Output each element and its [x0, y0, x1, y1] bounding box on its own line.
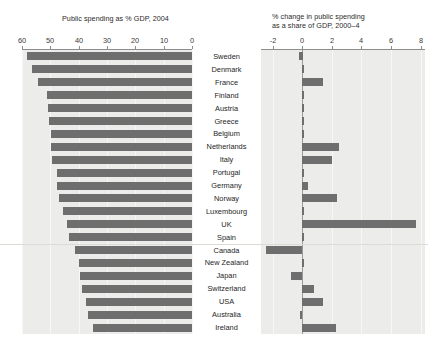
left-chart-axis-line — [22, 49, 192, 50]
bar-left-greece — [49, 117, 192, 125]
right-axis-6-tick-label: 6 — [389, 36, 393, 45]
bar-left-canada — [75, 246, 192, 254]
category-label-denmark: Denmark — [192, 65, 261, 74]
right-axis-4-tick — [361, 46, 362, 49]
bar-right-sweden — [299, 52, 303, 60]
bar-left-switzerland — [82, 285, 192, 293]
bar-right-new-zealand — [302, 259, 304, 267]
bar-right-netherlands — [302, 143, 339, 151]
right-chart-title: % change in public spending as a share o… — [272, 12, 365, 31]
right-gridline-2 — [332, 50, 333, 334]
bar-left-finland — [47, 91, 192, 99]
left-axis-60-tick — [22, 46, 23, 49]
left-axis-50-tick-label: 50 — [46, 36, 54, 45]
category-label-switzerland: Switzerland — [192, 284, 261, 293]
left-axis-60-tick-label: 60 — [18, 36, 26, 45]
right-axis-0-tick-label: 0 — [300, 36, 304, 45]
right-gridline--2 — [273, 50, 274, 334]
left-axis-30-tick — [107, 46, 108, 49]
bar-left-denmark — [32, 65, 192, 73]
right-chart-plot-area — [261, 50, 425, 334]
category-label-france: France — [192, 78, 261, 87]
category-label-uk: UK — [192, 220, 261, 229]
left-axis-10-tick-label: 10 — [160, 36, 168, 45]
category-label-sweden: Sweden — [192, 52, 261, 61]
bar-left-new-zealand — [79, 259, 192, 267]
bar-left-belgium — [51, 130, 192, 138]
right-gridline-8 — [421, 50, 422, 334]
bar-left-sweden — [27, 52, 192, 60]
bar-left-spain — [69, 233, 192, 241]
bar-right-uk — [302, 220, 416, 228]
category-label-italy: Italy — [192, 155, 261, 164]
bar-right-portugal — [302, 169, 304, 177]
bar-left-ireland — [93, 324, 192, 332]
category-label-belgium: Belgium — [192, 129, 261, 138]
category-label-netherlands: Netherlands — [192, 142, 261, 151]
right-axis-8-tick — [421, 46, 422, 49]
bar-right-canada — [266, 246, 302, 254]
bar-right-austria — [302, 104, 304, 112]
right-axis-4-tick-label: 4 — [359, 36, 363, 45]
left-axis-10-tick — [164, 46, 165, 49]
bar-right-denmark — [302, 65, 304, 73]
right-gridline-4 — [361, 50, 362, 334]
bar-right-usa — [302, 298, 323, 306]
chart-root: 6050403020100-202468 Public spending as … — [0, 0, 428, 342]
left-axis-50-tick — [50, 46, 51, 49]
left-axis-0-tick-label: 0 — [190, 36, 194, 45]
left-chart-title: Public spending as % GDP, 2004 — [62, 14, 169, 23]
left-axis-30-tick-label: 30 — [103, 36, 111, 45]
bar-left-austria — [48, 104, 192, 112]
category-label-australia: Australia — [192, 310, 261, 319]
category-label-ireland: Ireland — [192, 323, 261, 332]
category-label-spain: Spain — [192, 233, 261, 242]
category-label-usa: USA — [192, 297, 261, 306]
left-axis-20-tick — [135, 46, 136, 49]
bar-left-norway — [59, 194, 192, 202]
bar-right-australia — [300, 311, 302, 319]
left-axis-40-tick — [79, 46, 80, 49]
category-label-japan: Japan — [192, 271, 261, 280]
left-gridline-60 — [22, 50, 23, 334]
bar-left-luxembourg — [63, 207, 192, 215]
right-axis-2-tick-label: 2 — [330, 36, 334, 45]
category-label-luxembourg: Luxembourg — [192, 207, 261, 216]
category-label-germany: Germany — [192, 181, 261, 190]
category-label-greece: Greece — [192, 117, 261, 126]
right-axis-6-tick — [391, 46, 392, 49]
bar-left-usa — [86, 298, 192, 306]
bar-right-belgium — [302, 130, 304, 138]
bar-left-portugal — [57, 169, 192, 177]
bar-left-uk — [67, 220, 192, 228]
bar-left-france — [38, 78, 192, 86]
category-label-finland: Finland — [192, 91, 261, 100]
category-label-portugal: Portugal — [192, 168, 261, 177]
bar-left-germany — [57, 182, 192, 190]
category-label-norway: Norway — [192, 194, 261, 203]
bar-right-japan — [291, 272, 302, 280]
bar-right-greece — [302, 117, 304, 125]
right-axis-2-tick — [332, 46, 333, 49]
bar-right-ireland — [302, 324, 336, 332]
group-separator-line — [0, 244, 428, 245]
right-axis--2-tick-label: -2 — [270, 36, 277, 45]
right-chart-axis-line — [261, 49, 425, 50]
bar-right-finland — [302, 91, 304, 99]
bar-right-spain — [302, 233, 304, 241]
bar-left-australia — [88, 311, 192, 319]
left-axis-40-tick-label: 40 — [75, 36, 83, 45]
bar-left-netherlands — [51, 143, 192, 151]
left-axis-0-tick — [192, 46, 193, 49]
bar-right-switzerland — [302, 285, 314, 293]
left-axis-20-tick-label: 20 — [131, 36, 139, 45]
bar-right-germany — [302, 182, 308, 190]
right-axis-8-tick-label: 8 — [419, 36, 423, 45]
bar-right-luxembourg — [302, 207, 304, 215]
category-label-new-zealand: New Zealand — [192, 258, 261, 267]
right-axis-0-tick — [302, 46, 303, 49]
right-axis--2-tick — [273, 46, 274, 49]
right-gridline-6 — [391, 50, 392, 334]
bar-right-norway — [302, 194, 337, 202]
category-label-austria: Austria — [192, 104, 261, 113]
